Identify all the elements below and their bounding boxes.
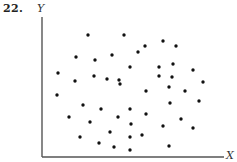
- data-point: [81, 103, 84, 106]
- data-point: [161, 39, 164, 42]
- data-point: [201, 80, 204, 83]
- data-point: [74, 55, 77, 58]
- data-point: [56, 71, 59, 74]
- data-point: [170, 75, 173, 78]
- data-point: [122, 33, 125, 36]
- data-point: [167, 85, 170, 88]
- data-point: [157, 65, 160, 68]
- data-point: [144, 89, 147, 92]
- data-point: [78, 135, 81, 138]
- data-point: [174, 44, 177, 47]
- data-point: [92, 74, 95, 77]
- data-point: [55, 93, 58, 96]
- data-point: [93, 58, 96, 61]
- data-point: [168, 101, 171, 104]
- data-point: [105, 77, 108, 80]
- data-point: [197, 99, 200, 102]
- data-point: [144, 112, 147, 115]
- data-point: [128, 148, 131, 151]
- data-point: [112, 145, 115, 148]
- data-point: [67, 115, 70, 118]
- data-point: [88, 120, 91, 123]
- data-point: [183, 89, 186, 92]
- data-point: [128, 135, 131, 138]
- data-point: [86, 33, 89, 36]
- data-point: [161, 124, 164, 127]
- data-point: [167, 144, 170, 147]
- data-point: [108, 130, 111, 133]
- data-point: [171, 62, 174, 65]
- data-point: [136, 50, 139, 53]
- data-point: [140, 133, 143, 136]
- data-point: [116, 115, 119, 118]
- data-point: [179, 117, 182, 120]
- data-point: [110, 53, 113, 56]
- data-point: [157, 74, 160, 77]
- data-point: [129, 122, 132, 125]
- data-point: [99, 107, 102, 110]
- data-point: [73, 79, 76, 82]
- data-point: [128, 107, 131, 110]
- data-point: [143, 44, 146, 47]
- data-point: [97, 141, 100, 144]
- data-point: [191, 68, 194, 71]
- data-point: [191, 126, 194, 129]
- scatter-plot: [0, 0, 237, 162]
- data-points: [55, 33, 204, 151]
- data-point: [128, 65, 131, 68]
- data-point: [118, 82, 121, 85]
- data-point: [117, 78, 120, 81]
